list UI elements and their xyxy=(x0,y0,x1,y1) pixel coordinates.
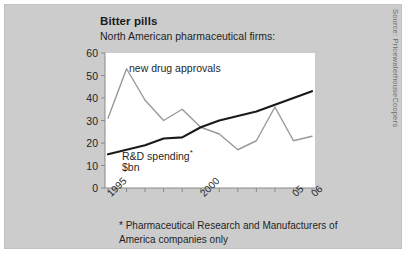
series-label-approvals: new drug approvals xyxy=(129,62,221,74)
y-tick-label: 60 xyxy=(86,47,98,59)
source-credit: Source: PricewaterhouseCoopers xyxy=(391,9,400,127)
y-axis-labels: 0102030405060 xyxy=(65,49,98,192)
series-line-new-drug-approvals xyxy=(108,69,312,150)
y-tick-label: 50 xyxy=(86,70,98,82)
y-tick-label: 20 xyxy=(86,137,98,149)
series-label-rd: R&D spending* xyxy=(122,148,193,162)
y-tick-label: 0 xyxy=(92,182,98,194)
y-tick-label: 10 xyxy=(86,160,98,172)
series-label-rd-units: $bn xyxy=(122,161,140,173)
series-line-r-d-spending-bn- xyxy=(108,91,312,154)
y-tick-label: 40 xyxy=(86,92,98,104)
series-label-rd-text: R&D spending xyxy=(122,150,190,162)
y-tick-label: 30 xyxy=(86,115,98,127)
chart-figure: Bitter pills North American pharmaceutic… xyxy=(4,4,402,249)
chart-subtitle: North American pharmaceutical firms: xyxy=(100,30,275,42)
chart-title: Bitter pills xyxy=(100,15,157,27)
chart-footnote: * Pharmaceutical Research and Manufactur… xyxy=(119,219,359,247)
footnote-marker-icon: * xyxy=(190,148,193,157)
